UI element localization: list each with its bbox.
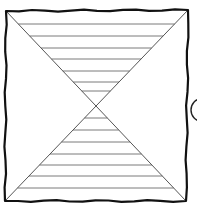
bottom-triangle-hatching [18,118,174,188]
hatched-square-diagram [0,0,197,210]
top-triangle-hatching [18,24,174,91]
partial-circle-arc [191,99,197,121]
